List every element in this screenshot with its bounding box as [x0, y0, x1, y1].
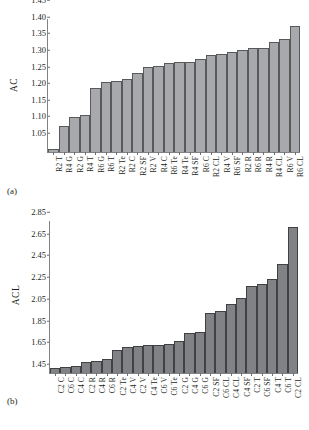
bar: [248, 48, 259, 152]
bar: [227, 52, 238, 152]
bar: [237, 50, 248, 152]
bar: [122, 347, 132, 373]
x-label-slot: C2 R: [81, 377, 91, 430]
y-tick-label: 1.20: [31, 79, 46, 88]
x-label-slot: R4 C: [153, 156, 164, 204]
bar: [288, 227, 298, 373]
bar: [277, 264, 287, 373]
x-label-slot: R4 Te: [174, 156, 185, 204]
x-tick-mark: [85, 152, 86, 155]
x-tick-mark: [117, 373, 118, 376]
bar: [246, 286, 256, 373]
x-label-slot: R4 SF: [185, 156, 196, 204]
panel-b-bar-series: [50, 221, 298, 373]
x-tick-mark: [65, 373, 66, 376]
x-tick-mark: [107, 373, 108, 376]
bar: [195, 332, 205, 373]
bar: [226, 304, 236, 373]
x-tick-mark: [274, 152, 275, 155]
x-label-slot: C2 CL: [288, 377, 298, 430]
x-label-slot: R6 C: [195, 156, 206, 204]
y-tick-label: 1.85: [31, 316, 46, 325]
x-label-slot: C2 Te: [112, 377, 122, 430]
x-label-slot: C4 G: [184, 377, 194, 430]
x-tick-mark: [190, 152, 191, 155]
panel-b-plot-area: C2 CC6 CC4 CC2 RC4 RC6 RC2 TeC4 VC2 VC4 …: [49, 221, 298, 374]
x-label-slot: R2 G: [69, 156, 80, 204]
y-tick-label: 2.85: [31, 208, 46, 217]
y-tick-label: 1.65: [31, 338, 46, 347]
x-tick-mark: [106, 152, 107, 155]
x-label-slot: C2 G: [174, 377, 184, 430]
x-tick-mark: [293, 373, 294, 376]
panel-b-tag: (b): [7, 396, 18, 406]
bar: [205, 313, 215, 373]
x-label-slot: C2 T: [246, 377, 256, 430]
x-label-slot: C4 Te: [143, 377, 153, 430]
x-tick-mark: [220, 373, 221, 376]
x-tick-mark: [127, 152, 128, 155]
y-tick-label: 1.30: [31, 46, 46, 55]
bar: [215, 311, 225, 373]
bar: [111, 81, 122, 152]
bar: [133, 346, 143, 373]
x-label-slot: R4 G: [59, 156, 70, 204]
x-tick-mark: [231, 373, 232, 376]
bar: [267, 279, 277, 373]
x-label-slot: R2 V: [143, 156, 154, 204]
x-tick-mark: [96, 373, 97, 376]
x-label-slot: C2 C: [50, 377, 60, 430]
x-tick-mark: [282, 373, 283, 376]
x-tick-mark: [55, 373, 56, 376]
bar: [153, 66, 164, 152]
x-label-slot: C4 SF: [236, 377, 246, 430]
bar: [185, 62, 196, 152]
x-label-slot: R4 V: [216, 156, 227, 204]
bar: [257, 284, 267, 373]
x-label-slot: R2 R: [237, 156, 248, 204]
x-tick-mark: [200, 373, 201, 376]
bar: [112, 350, 122, 373]
x-label-slot: R2 T: [48, 156, 59, 204]
bar: [59, 126, 70, 152]
x-label-slot: C6 Te: [164, 377, 174, 430]
bar: [101, 82, 112, 152]
x-label-slot: R4 T: [80, 156, 91, 204]
x-tick-label: C2 CL: [295, 377, 303, 398]
panel-a-y-tick-labels: 1.451.401.351.301.251.201.151.101.05: [18, 0, 46, 133]
y-tick-label: 1.05: [31, 129, 46, 138]
x-label-slot: C2 V: [133, 377, 143, 430]
panel-a-bar-series: [48, 19, 300, 152]
x-label-slot: R6 R: [248, 156, 259, 204]
bar: [206, 55, 217, 152]
bar: [80, 115, 91, 152]
x-label-slot: C6 R: [102, 377, 112, 430]
x-label-slot: C4 C: [71, 377, 81, 430]
y-tick-label: 2.25: [31, 273, 46, 282]
x-label-slot: C4 R: [91, 377, 101, 430]
x-label-slot: C6 SF: [257, 377, 267, 430]
y-tick-label: 1.45: [31, 0, 46, 4]
bar: [174, 341, 184, 373]
y-tick-label: 2.45: [31, 251, 46, 260]
x-tick-mark: [76, 373, 77, 376]
x-tick-mark: [86, 373, 87, 376]
y-tick-mark: [47, 0, 50, 1]
x-tick-mark: [263, 152, 264, 155]
x-label-slot: R4 R: [258, 156, 269, 204]
bar: [195, 59, 206, 152]
x-tick-mark: [189, 373, 190, 376]
panel-b: (b) ACL 2.852.652.452.252.051.851.651.45…: [0, 212, 309, 430]
panel-a-tag: (a): [7, 186, 17, 196]
x-tick-mark: [262, 373, 263, 376]
x-tick-mark: [179, 152, 180, 155]
y-tick-label: 1.25: [31, 62, 46, 71]
x-tick-mark: [272, 373, 273, 376]
x-label-slot: C6 G: [195, 377, 205, 430]
x-label-slot: R6 V: [279, 156, 290, 204]
x-label-slot: C6 C: [60, 377, 70, 430]
y-tick-label: 1.35: [31, 29, 46, 38]
x-tick-mark: [64, 152, 65, 155]
x-tick-mark: [251, 373, 252, 376]
x-label-slot: R6 G: [90, 156, 101, 204]
